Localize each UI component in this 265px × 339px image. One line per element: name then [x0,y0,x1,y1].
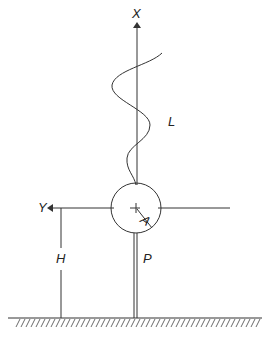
ground-hatching [16,319,260,327]
height-label: H [56,251,66,266]
diagram-canvas: X L Y A P H [0,0,265,339]
x-axis-label: X [131,6,142,21]
post-label: P [143,251,152,266]
y-axis-label: Y [38,200,48,215]
length-label: L [168,114,175,129]
